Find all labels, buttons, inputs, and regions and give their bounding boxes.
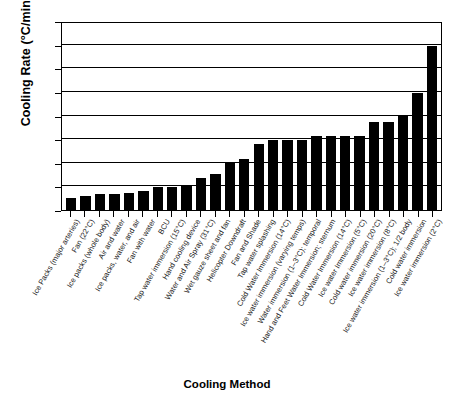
x-tick-slot [266, 211, 281, 217]
bar [167, 187, 177, 210]
bar [340, 136, 350, 210]
bar [268, 140, 278, 210]
bar [282, 140, 292, 210]
bar-slot [251, 23, 265, 210]
bar-slot [93, 23, 107, 210]
x-axis-tick-mark [84, 211, 85, 217]
x-tick-slot [107, 211, 122, 217]
x-tick-slot [426, 211, 441, 217]
bar-slot [165, 23, 179, 210]
bar [311, 136, 321, 210]
bar-slot [136, 23, 150, 210]
bar-slot [122, 23, 136, 210]
x-tick-slot [397, 211, 412, 217]
bar-slot [78, 23, 92, 210]
bar [66, 198, 76, 210]
bar [124, 193, 134, 210]
bar-slot [381, 23, 395, 210]
cooling-rate-bar-chart: Cooling Rate (°C/min) 0.000.050.100.150.… [0, 0, 454, 411]
x-tick-slot [78, 211, 93, 217]
x-tick-slot [92, 211, 107, 217]
x-axis-tick-mark [70, 211, 71, 217]
x-axis-tick-mark [258, 211, 259, 217]
bar [239, 159, 249, 210]
plot-area [61, 22, 442, 211]
bar [254, 144, 264, 210]
x-axis-tick-mark [128, 211, 129, 217]
bar [297, 140, 307, 210]
bar [369, 122, 379, 210]
x-tick-slot [165, 211, 180, 217]
bar [412, 93, 422, 210]
x-axis-tick-mark [331, 211, 332, 217]
bar [427, 46, 437, 210]
x-axis-tick-mark [215, 211, 216, 217]
x-tick-slot [208, 211, 223, 217]
bar [383, 122, 393, 210]
bar [354, 136, 364, 210]
bar-slot [64, 23, 78, 210]
x-axis-tick-labels: Ice Packs (major arteries)Fan (22°C)Ice … [61, 218, 442, 363]
bar-slot [208, 23, 222, 210]
x-axis-tick-mark [142, 211, 143, 217]
bar [181, 185, 191, 211]
x-tick-slot [281, 211, 296, 217]
bar-slot [107, 23, 121, 210]
bar-slot [309, 23, 323, 210]
bar-slot [396, 23, 410, 210]
x-tick-slot [295, 211, 310, 217]
x-axis-tick-mark [287, 211, 288, 217]
x-tick-slot [353, 211, 368, 217]
x-axis-tick-mark [302, 211, 303, 217]
x-axis-tick-mark [229, 211, 230, 217]
x-tick-slot [252, 211, 267, 217]
bar-slot [194, 23, 208, 210]
x-tick-slot [368, 211, 383, 217]
bar [80, 196, 90, 210]
x-axis-tick-mark [113, 211, 114, 217]
x-tick-slot [223, 211, 238, 217]
x-tick-slot [63, 211, 78, 217]
bar-slot [352, 23, 366, 210]
bar-slot [425, 23, 439, 210]
bar [225, 162, 235, 210]
x-axis-tick-mark [157, 211, 158, 217]
x-tick-slot [150, 211, 165, 217]
x-tick-slot [237, 211, 252, 217]
x-axis-tick-mark [171, 211, 172, 217]
bar [153, 187, 163, 210]
bar [109, 194, 119, 210]
x-axis-title: Cooling Method [0, 378, 454, 390]
bar [210, 174, 220, 210]
x-axis-tick-mark [200, 211, 201, 217]
bar-slot [237, 23, 251, 210]
bar [138, 191, 148, 210]
bar [95, 194, 105, 210]
y-axis-title: Cooling Rate (°C/min) [19, 0, 37, 161]
x-axis-tick-mark [360, 211, 361, 217]
bar-slot [151, 23, 165, 210]
bar-slot [179, 23, 193, 210]
bar-slot [324, 23, 338, 210]
bar-slot [338, 23, 352, 210]
x-tick-slot [310, 211, 325, 217]
bar-slot [223, 23, 237, 210]
x-tick-slot [324, 211, 339, 217]
x-axis-tick-mark [316, 211, 317, 217]
bar-slot [295, 23, 309, 210]
x-axis-tick-mark [99, 211, 100, 217]
bar-slot [266, 23, 280, 210]
x-axis-tick-mark [273, 211, 274, 217]
x-axis-tick-mark [432, 211, 433, 217]
x-tick-slot [411, 211, 426, 217]
bar-slot [410, 23, 424, 210]
x-axis-tick-mark [403, 211, 404, 217]
bar [398, 116, 408, 210]
x-tick-slot [136, 211, 151, 217]
x-axis-tick-mark [186, 211, 187, 217]
x-tick-slot [179, 211, 194, 217]
x-axis-tick-mark [418, 211, 419, 217]
x-tick-slot [339, 211, 354, 217]
bar-slot [280, 23, 294, 210]
x-axis-tick-mark [244, 211, 245, 217]
